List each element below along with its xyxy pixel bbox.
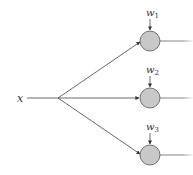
edge-fade: [183, 0, 193, 175]
weight-label-1: w1: [146, 7, 159, 20]
weight-label-3: w3: [146, 121, 159, 134]
weight-label-2: w2: [146, 64, 159, 77]
input-label-x: x: [17, 92, 24, 105]
branch-arrow-1: [58, 42, 140, 98]
node-2: [140, 88, 160, 108]
node-3: [140, 145, 160, 165]
diagram-canvas: x w1 w2 w3: [0, 0, 193, 175]
node-1: [140, 31, 160, 51]
branch-arrow-3: [58, 98, 140, 154]
